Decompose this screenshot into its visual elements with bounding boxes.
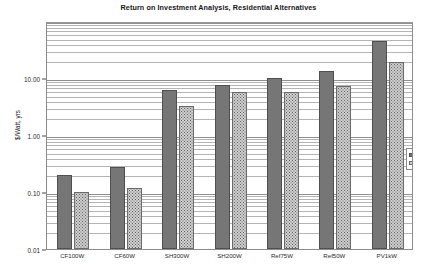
x-tick-label-SH300W: SH300W — [165, 252, 189, 259]
x-tick-label-CF100W: CF100W — [60, 252, 84, 259]
bar-CF100W-series1 — [74, 192, 89, 249]
y-tick-label-2: 1.00 — [28, 133, 40, 140]
bar-group-CF100W — [57, 23, 89, 249]
bar-CF60W-series0 — [110, 167, 125, 249]
bar-Ref50W-series0 — [319, 71, 334, 249]
bar-Ref75W-series0 — [267, 78, 282, 249]
bar-group-PV1kW — [372, 23, 404, 249]
chart-container: Return on Investment Analysis, Residenti… — [0, 0, 437, 277]
x-tick-label-Ref50W: Ref50W — [323, 252, 345, 259]
y-axis-title: $/Watt, yrs — [14, 110, 21, 140]
y-tick-label-1: 0.10 — [28, 190, 40, 197]
y-tick-label-3: 10.00 — [24, 76, 40, 83]
legend: UIP, $/WavgROC, yrs — [406, 148, 413, 170]
bar-Ref75W-series1 — [284, 92, 299, 249]
bar-SH300W-series0 — [162, 90, 177, 249]
x-tick-label-Ref75W: Ref75W — [271, 252, 293, 259]
bar-group-Ref50W — [319, 23, 351, 249]
bar-group-CF60W — [110, 23, 142, 249]
x-tick-label-PV1kW: PV1kW — [377, 252, 397, 259]
bar-PV1kW-series1 — [389, 62, 404, 249]
x-tick-label-SH200W: SH200W — [217, 252, 241, 259]
y-tick-label-0: 0.01 — [28, 247, 40, 254]
bar-group-Ref75W — [267, 23, 299, 249]
legend-swatch-0 — [409, 153, 413, 157]
plot-area: UIP, $/WavgROC, yrs — [46, 22, 413, 250]
bar-PV1kW-series0 — [372, 41, 387, 249]
legend-item-1: ROC, yrs — [409, 159, 413, 166]
legend-swatch-1 — [409, 161, 413, 165]
bar-SH300W-series1 — [179, 106, 194, 249]
bar-CF100W-series0 — [57, 175, 72, 249]
bar-SH200W-series0 — [215, 85, 230, 249]
bars-layer — [47, 23, 412, 249]
x-axis: CF100WCF60WSH300WSH200WRef75WRef50WPV1kW — [46, 252, 413, 270]
y-axis: 0.010.101.0010.00 — [0, 22, 46, 250]
chart-title: Return on Investment Analysis, Residenti… — [0, 3, 437, 12]
bar-group-SH200W — [215, 23, 247, 249]
x-tick-label-CF60W: CF60W — [114, 252, 135, 259]
legend-item-0: UIP, $/Wavg — [409, 152, 413, 159]
bar-CF60W-series1 — [127, 188, 142, 250]
bar-Ref50W-series1 — [336, 86, 351, 249]
bar-SH200W-series1 — [232, 92, 247, 249]
bar-group-SH300W — [162, 23, 194, 249]
